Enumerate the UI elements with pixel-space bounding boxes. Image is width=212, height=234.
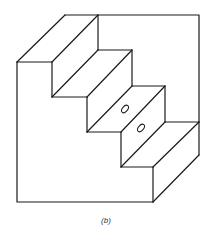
bottom-diag xyxy=(153,155,199,202)
step1-diag xyxy=(52,15,98,62)
step4-diag xyxy=(153,122,199,167)
hole-1 xyxy=(120,104,130,114)
left-face xyxy=(17,62,153,202)
left-face-outline xyxy=(17,15,65,62)
step4-diag-left xyxy=(121,122,165,167)
figure-caption: (b) xyxy=(0,216,212,225)
hole-2 xyxy=(136,123,146,133)
step2-diag xyxy=(87,50,132,97)
staircase-diagram xyxy=(0,0,212,234)
step3-diag-left xyxy=(87,86,132,132)
step2-diag-left xyxy=(52,50,98,97)
